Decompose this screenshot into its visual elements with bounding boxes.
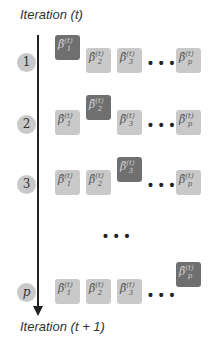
row3-ellipsis: • • • — [148, 178, 175, 192]
rowp-ellipsis: • • • — [148, 288, 175, 302]
arrow-down-icon — [33, 306, 43, 316]
coef-box-row1-beta2: β̂(t)2 — [86, 48, 111, 73]
row2-ellipsis: • • • — [148, 118, 175, 132]
step-circle-p: p — [17, 283, 36, 302]
row1-ellipsis: • • • — [148, 56, 175, 70]
coef-box-rowp-beta1: β̂(t)1 — [55, 279, 80, 304]
rows-ellipsis: • • • — [103, 229, 130, 243]
step-circle-1: 1 — [17, 53, 36, 72]
step-circle-2: 2 — [17, 115, 36, 134]
coef-box-rowp-beta3: β̂(t)3 — [117, 279, 142, 304]
coef-box-row3-beta3: β̂(t)3 — [117, 157, 142, 182]
coef-box-row2-betap: β̂(t)p — [176, 110, 201, 135]
coef-box-row2-beta2: β̂(t)2 — [86, 95, 111, 120]
iteration-next-label: Iteration (t + 1) — [20, 319, 105, 334]
coef-box-row1-beta3: β̂(t)3 — [117, 48, 142, 73]
coef-box-row3-betap: β̂(t)p — [176, 170, 201, 195]
coef-box-rowp-betap: β̂(t)p — [176, 262, 201, 287]
coef-box-row3-beta2: β̂(t)2 — [86, 170, 111, 195]
coef-box-rowp-beta2: β̂(t)2 — [86, 279, 111, 304]
step-circle-3: 3 — [17, 175, 36, 194]
iteration-start-label: Iteration (t) — [20, 7, 83, 22]
coef-box-row1-betap: β̂(t)p — [176, 48, 201, 73]
coef-box-row2-beta1: β̂(t)1 — [55, 110, 80, 135]
iteration-axis-line — [37, 35, 39, 308]
coef-box-row2-beta3: β̂(t)3 — [117, 110, 142, 135]
coordinate-descent-diagram: Iteration (t) 1 β̂(t)1 β̂(t)2 β̂(t)3 • •… — [0, 0, 215, 344]
coef-box-row3-beta1: β̂(t)1 — [55, 170, 80, 195]
coef-box-row1-beta1: β̂(t)1 — [55, 35, 80, 60]
